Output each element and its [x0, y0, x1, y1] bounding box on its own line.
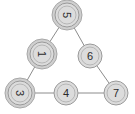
node-label: 1: [36, 51, 48, 57]
graph-edge: [96, 65, 109, 84]
node-label: 5: [61, 12, 73, 18]
graph-edge: [27, 66, 35, 81]
graph-node[interactable]: 3: [5, 78, 35, 108]
graph-node[interactable]: 4: [54, 81, 78, 105]
graph-node[interactable]: 1: [27, 39, 57, 69]
graph-node[interactable]: 5: [52, 0, 82, 30]
graph-node[interactable]: 6: [78, 44, 102, 68]
node-layer: 516347: [5, 0, 128, 108]
node-label: 3: [14, 90, 26, 96]
graph-svg: 516347: [0, 0, 135, 114]
graph-canvas: 516347: [0, 0, 135, 114]
node-label: 4: [63, 87, 69, 99]
graph-node[interactable]: 7: [104, 81, 128, 105]
graph-edge: [74, 27, 85, 46]
node-label: 7: [113, 87, 119, 99]
node-label: 6: [87, 50, 93, 62]
graph-edge: [50, 27, 60, 42]
